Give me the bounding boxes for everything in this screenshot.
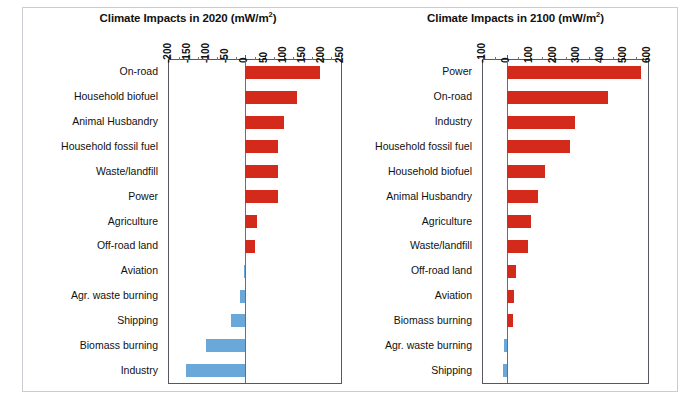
plot-area-2100: -1000100200300400500600 xyxy=(482,59,649,384)
category-labels-2020: On-roadHousehold biofuelAnimal Husbandry… xyxy=(23,59,164,384)
category-label: Agriculture xyxy=(108,215,158,227)
bar xyxy=(245,91,297,104)
x-axis-minor-tick xyxy=(589,57,590,60)
bar xyxy=(245,165,278,178)
bar xyxy=(245,215,256,228)
bar xyxy=(503,364,506,377)
x-axis-tick-label: -200 xyxy=(162,43,173,63)
category-label: Aviation xyxy=(121,264,158,276)
x-axis-tick-label: 200 xyxy=(315,46,326,63)
category-label: Industry xyxy=(435,115,472,127)
category-label: Aviation xyxy=(435,289,472,301)
x-axis-tick-label: 200 xyxy=(547,46,558,63)
x-axis-tick-label: 0 xyxy=(500,57,511,63)
bar xyxy=(507,240,529,253)
category-label: Agr. waste burning xyxy=(71,289,158,301)
category-label: Household fossil fuel xyxy=(61,140,158,152)
x-axis-minor-tick xyxy=(613,57,614,60)
bar xyxy=(507,265,517,278)
bar xyxy=(231,314,246,327)
x-axis-minor-tick xyxy=(542,57,543,60)
plot-area-2020: -200-150-100-50050100150200250 xyxy=(168,59,342,384)
bar xyxy=(507,116,575,129)
category-label: Animal Husbandry xyxy=(386,190,472,202)
bar xyxy=(245,66,320,79)
category-label: Biomass burning xyxy=(80,339,158,351)
category-label: Household fossil fuel xyxy=(375,140,472,152)
bar xyxy=(507,91,609,104)
bar xyxy=(244,265,245,278)
bar xyxy=(507,290,514,303)
chart-title-2100-tail: ) xyxy=(600,12,604,24)
x-axis-minor-tick xyxy=(331,57,332,60)
bar xyxy=(507,190,539,203)
bar xyxy=(245,116,284,129)
bar xyxy=(507,140,570,153)
x-axis-minor-tick xyxy=(236,57,237,60)
chart-panel-2100: Climate Impacts in 2100 (mW/m2) PowerOn-… xyxy=(353,8,678,393)
category-label: Power xyxy=(442,65,472,77)
category-label: Off-road land xyxy=(411,264,472,276)
chart-panel-2020: Climate Impacts in 2020 (mW/m2) On-roadH… xyxy=(23,8,353,393)
x-axis-tick-label: 100 xyxy=(277,46,288,63)
x-axis-tick-label: -100 xyxy=(200,43,211,63)
chart-title-2020-tail: ) xyxy=(273,12,277,24)
category-label: On-road xyxy=(119,65,158,77)
x-axis-tick-label: 0 xyxy=(238,57,249,63)
bar xyxy=(206,339,245,352)
x-axis-minor-tick xyxy=(293,57,294,60)
category-label: Power xyxy=(128,190,158,202)
x-axis-minor-tick xyxy=(312,57,313,60)
figure-frame: Climate Impacts in 2020 (mW/m2) On-roadH… xyxy=(22,7,678,392)
x-axis-minor-tick xyxy=(217,57,218,60)
bar xyxy=(507,66,642,79)
category-labels-2100: PowerOn-roadIndustryHousehold fossil fue… xyxy=(353,59,478,384)
x-axis-minor-tick xyxy=(198,57,199,60)
x-axis-tick-label: 250 xyxy=(334,46,345,63)
category-label: Off-road land xyxy=(97,239,158,251)
figure-root: Climate Impacts in 2020 (mW/m2) On-roadH… xyxy=(0,0,699,401)
chart-title-2020-main: Climate Impacts in 2020 (mW/m xyxy=(100,12,269,24)
x-axis-minor-tick xyxy=(518,57,519,60)
x-axis-tick-label: 300 xyxy=(570,46,581,63)
chart-title-2100: Climate Impacts in 2100 (mW/m2) xyxy=(353,12,678,24)
category-label: Waste/landfill xyxy=(410,239,472,251)
bar xyxy=(240,290,245,303)
x-axis-tick-label: 400 xyxy=(594,46,605,63)
x-axis-minor-tick xyxy=(179,57,180,60)
bar xyxy=(507,215,532,228)
chart-title-2020: Climate Impacts in 2020 (mW/m2) xyxy=(23,12,353,24)
bar xyxy=(245,140,278,153)
category-label: Household biofuel xyxy=(74,90,158,102)
bar xyxy=(507,165,545,178)
x-axis-minor-tick xyxy=(566,57,567,60)
x-axis-tick-label: -100 xyxy=(476,43,487,63)
x-axis-tick-label: 500 xyxy=(617,46,628,63)
x-axis-tick-label: 150 xyxy=(296,46,307,63)
x-axis-tick-label: 600 xyxy=(641,46,652,63)
category-label: Agriculture xyxy=(422,215,472,227)
category-label: Waste/landfill xyxy=(96,165,158,177)
bar xyxy=(245,240,255,253)
bar xyxy=(504,339,506,352)
x-axis-tick-label: -150 xyxy=(181,43,192,63)
category-label: Industry xyxy=(121,364,158,376)
category-label: Household biofuel xyxy=(388,165,472,177)
x-axis-tick-label: -50 xyxy=(219,49,230,63)
category-label: Shipping xyxy=(431,364,472,376)
x-axis-minor-tick xyxy=(495,57,496,60)
x-axis-tick-label: 100 xyxy=(523,46,534,63)
x-axis-minor-tick xyxy=(636,57,637,60)
x-axis-minor-tick xyxy=(274,57,275,60)
bar xyxy=(186,364,246,377)
category-label: On-road xyxy=(433,90,472,102)
category-label: Biomass burning xyxy=(394,314,472,326)
category-label: Shipping xyxy=(117,314,158,326)
bar xyxy=(507,314,513,327)
chart-title-2100-main: Climate Impacts in 2100 (mW/m xyxy=(427,12,596,24)
bar xyxy=(245,190,277,203)
category-label: Agr. waste burning xyxy=(385,339,472,351)
category-label: Animal Husbandry xyxy=(72,115,158,127)
x-axis-tick-label: 50 xyxy=(258,52,269,63)
x-axis-minor-tick xyxy=(255,57,256,60)
